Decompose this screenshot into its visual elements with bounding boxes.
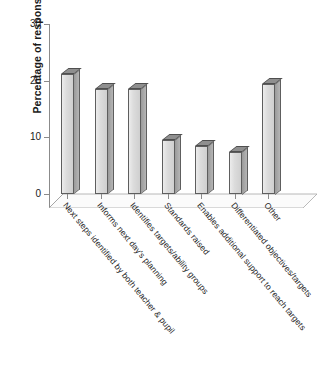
bar: [162, 140, 181, 194]
plot-area: 0102030: [49, 18, 317, 208]
y-tick-label-0: 0: [35, 189, 41, 199]
bar: [95, 89, 114, 194]
bar-front: [95, 89, 108, 194]
x-tick: [268, 194, 269, 199]
x-axis-label: Enables additional support to reach targ…: [195, 201, 307, 332]
bar-front: [128, 89, 141, 194]
bar-front: [162, 140, 175, 194]
bar: [262, 84, 281, 195]
x-tick: [168, 194, 169, 199]
bar: [128, 89, 147, 194]
bar-side: [175, 135, 181, 194]
x-tick: [201, 194, 202, 199]
x-axis-label: Next steps identified by both teacher & …: [61, 201, 176, 336]
x-axis-label: Standards raised: [162, 201, 211, 257]
y-tick-label-10: 10: [30, 132, 41, 142]
bar-side: [74, 69, 80, 194]
bar: [61, 74, 80, 194]
bar-side: [275, 79, 281, 194]
x-axis-label: Identifies targets/ability groups: [128, 201, 210, 296]
x-axis-label: Differentiated objectives/targets: [229, 201, 313, 299]
bar-front: [229, 152, 242, 195]
bar-series: [49, 18, 317, 208]
bar-side: [108, 84, 114, 194]
bar-side: [208, 141, 214, 194]
bar: [195, 146, 214, 194]
bar-chart: Percentage of responses 0102030 Next ste…: [0, 0, 336, 383]
bar-front: [262, 84, 275, 195]
bar-side: [141, 84, 147, 194]
bar: [229, 152, 248, 195]
x-tick: [67, 194, 68, 199]
bar-front: [195, 146, 208, 194]
x-tick: [101, 194, 102, 199]
bar-side: [242, 147, 248, 194]
y-tick-label-30: 30: [30, 19, 41, 29]
x-axis-label: Informs next day's planning: [95, 201, 169, 287]
y-tick-label-20: 20: [30, 76, 41, 86]
x-tick: [134, 194, 135, 199]
x-tick: [235, 194, 236, 199]
bar-front: [61, 74, 74, 194]
